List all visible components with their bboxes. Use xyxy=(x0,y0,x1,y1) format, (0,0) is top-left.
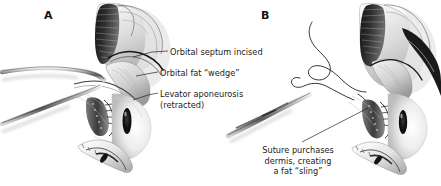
panel-b-letter: B xyxy=(261,9,269,22)
callout-suture-line-1: Suture purchases xyxy=(249,145,347,156)
panel-a-letter: A xyxy=(44,9,53,22)
callout-levator-aponeurosis: Levator aponeurosis (retracted) xyxy=(160,89,243,110)
callout-orbital-fat: Orbital fat “wedge” xyxy=(160,68,239,79)
panel-a-cornea xyxy=(123,108,132,134)
callout-orbital-septum: Orbital septum incised xyxy=(170,47,263,58)
panel-b-cornea xyxy=(399,110,407,134)
callout-suture-sling: Suture purchases dermis, creating a fat … xyxy=(249,145,347,177)
callout-levator-line-1: Levator aponeurosis xyxy=(160,89,243,100)
callout-levator-line-2: (retracted) xyxy=(160,100,243,111)
callout-suture-line-2: dermis, creating xyxy=(249,156,347,167)
callout-suture-line-3: a fat “sling” xyxy=(249,166,347,177)
